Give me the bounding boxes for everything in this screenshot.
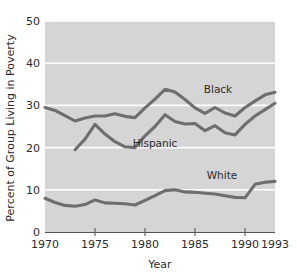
x-tick-label-1975: 1975	[81, 238, 109, 251]
chart-canvas: 197019751980198519901993 01020304050 Bla…	[0, 0, 297, 276]
y-tick-label-50: 50	[26, 15, 40, 28]
y-axis-tick-labels: 01020304050	[26, 15, 40, 239]
y-tick-label-0: 0	[33, 226, 40, 239]
series-label-white: White	[207, 169, 238, 181]
x-tick-label-1970: 1970	[31, 238, 59, 251]
y-axis-title: Percent of Group Living in Poverty	[4, 34, 17, 222]
series-label-hispanic: Hispanic	[133, 137, 178, 149]
y-tick-label-30: 30	[26, 99, 40, 112]
y-tick-label-20: 20	[26, 142, 40, 155]
y-tick-label-40: 40	[26, 57, 40, 70]
x-tick-label-1990: 1990	[231, 238, 259, 251]
series-label-black: Black	[204, 83, 233, 95]
y-tick-label-10: 10	[26, 184, 40, 197]
x-tick-label-1980: 1980	[131, 238, 159, 251]
x-axis-title: Year	[147, 258, 172, 271]
x-tick-label-1993: 1993	[261, 238, 289, 251]
poverty-line-chart: 197019751980198519901993 01020304050 Bla…	[0, 0, 297, 276]
x-axis-tick-labels: 197019751980198519901993	[31, 238, 289, 251]
plot-background	[45, 21, 275, 232]
x-tick-label-1985: 1985	[181, 238, 209, 251]
